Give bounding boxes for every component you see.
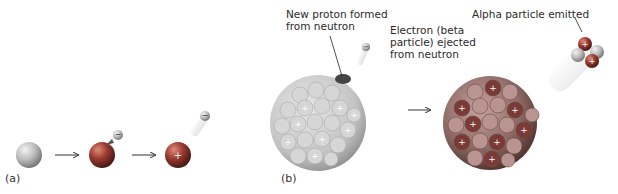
panel-a-label: (a) — [5, 172, 20, 185]
panel-b-nucleus-after: +++ +++ +++ — [443, 76, 544, 170]
annotation-line: particle) ejected — [390, 36, 476, 48]
annotation-line: from neutron — [390, 48, 476, 60]
new-proton-marker — [335, 74, 351, 84]
svg-text:+: + — [469, 119, 477, 129]
alpha-annotation: Alpha particle emitted — [472, 8, 589, 20]
panel-b-label: (b) — [281, 172, 297, 185]
svg-text:+: + — [488, 154, 496, 164]
annotation-line: from neutron — [286, 20, 388, 32]
annotation-line: New proton formed — [286, 8, 388, 20]
panel-a-proton: + − — [165, 111, 210, 168]
svg-text:+: + — [294, 119, 302, 129]
svg-text:+: + — [336, 103, 344, 113]
svg-text:+: + — [589, 57, 596, 66]
svg-text:+: + — [520, 125, 528, 135]
svg-text:−: − — [115, 130, 122, 139]
leader-line — [575, 18, 582, 32]
svg-text:+: + — [174, 150, 182, 161]
svg-text:+: + — [493, 137, 501, 147]
panel-a-decaying-neutron: − — [89, 130, 123, 168]
svg-text:+: + — [284, 137, 292, 147]
svg-text:+: + — [511, 105, 519, 115]
svg-text:+: + — [458, 137, 466, 147]
electron-annotation: Electron (beta particle) ejected from ne… — [390, 24, 476, 60]
svg-text:+: + — [582, 40, 589, 49]
svg-text:−: − — [363, 43, 369, 51]
svg-text:−: − — [202, 111, 209, 120]
leader-line — [330, 36, 342, 76]
panel-a-neutron — [16, 142, 42, 168]
svg-text:+: + — [536, 97, 544, 107]
alpha-particle: + + — [560, 37, 604, 80]
svg-text:+: + — [318, 134, 326, 144]
svg-text:+: + — [301, 103, 309, 113]
beta-electron: − — [360, 43, 370, 62]
svg-text:+: + — [458, 103, 466, 113]
panel-b-nucleus-before: +++ +++ ++ — [270, 74, 366, 171]
svg-text:+: + — [311, 151, 319, 161]
svg-text:+: + — [489, 83, 497, 93]
svg-text:+: + — [344, 125, 352, 135]
new-proton-annotation: New proton formed from neutron — [286, 8, 388, 32]
svg-text:+: + — [350, 110, 358, 120]
annotation-line: Electron (beta — [390, 24, 476, 36]
